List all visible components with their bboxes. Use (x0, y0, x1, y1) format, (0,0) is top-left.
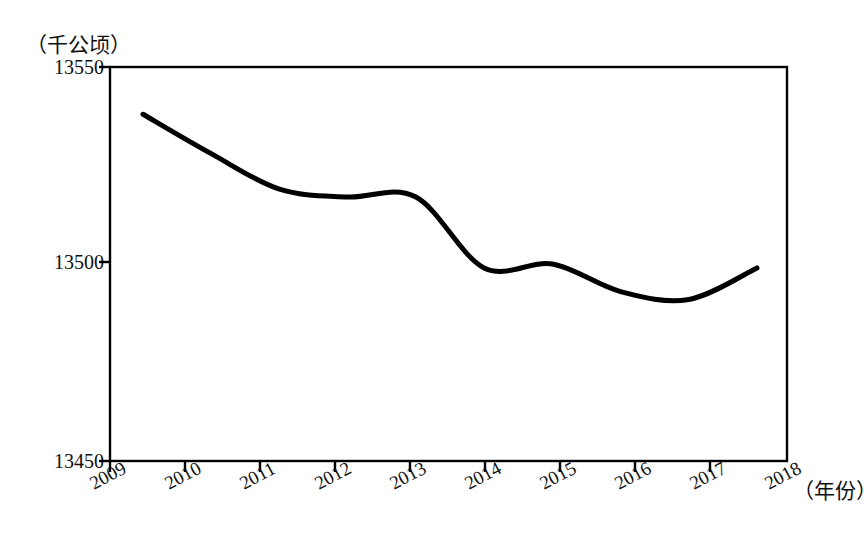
x-axis-unit-label: （年份） (793, 474, 868, 504)
plot-frame (110, 67, 787, 461)
data-series-line (143, 114, 757, 300)
